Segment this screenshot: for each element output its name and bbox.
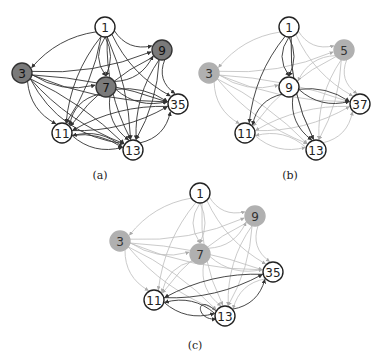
edge-faded [209, 197, 245, 213]
node-label: 3 [205, 67, 213, 81]
edge-faded [219, 32, 281, 68]
node-label: 5 [340, 44, 348, 58]
node-35: 35 [263, 262, 283, 282]
edge-highlighted [32, 32, 97, 68]
node-7: 7 [190, 244, 210, 264]
edge-faded [130, 218, 244, 240]
node-1: 1 [95, 17, 115, 37]
edge-faded [125, 250, 149, 291]
node-label: 13 [217, 310, 232, 324]
panel-caption: (b) [282, 169, 298, 182]
edge-faded [319, 60, 341, 140]
edge-highlighted [136, 60, 159, 140]
panel-caption: (a) [92, 169, 107, 182]
node-3: 3 [12, 63, 32, 83]
node-5: 5 [334, 40, 354, 60]
panel-caption: (c) [188, 339, 203, 352]
node-label: 1 [101, 21, 109, 35]
edge-faded [130, 243, 189, 256]
edge-highlighted [32, 52, 151, 72]
edge-faded [323, 112, 353, 143]
edge-highlighted [292, 96, 311, 140]
node-label: 13 [125, 144, 140, 158]
node-label: 37 [352, 98, 367, 112]
node-11: 11 [144, 290, 164, 310]
node-11: 11 [235, 123, 255, 143]
edge-faded [219, 75, 278, 88]
edge-highlighted [114, 31, 152, 47]
panel-c: 1937351113(c) [110, 183, 283, 352]
edge-faded [344, 60, 357, 94]
node-35: 35 [168, 94, 188, 114]
edge-highlighted [162, 60, 175, 94]
node-label: 7 [196, 248, 204, 262]
node-9: 9 [152, 40, 172, 60]
edge-highlighted [282, 37, 289, 76]
directed-graph-figure: 1937351113(a) 1539371113(b) 1937351113(c… [0, 0, 384, 363]
node-37: 37 [350, 94, 370, 114]
node-label: 3 [18, 67, 26, 81]
node-13: 13 [123, 140, 143, 160]
node-label: 9 [158, 44, 166, 58]
edge-faded [193, 203, 200, 243]
node-1: 1 [279, 17, 299, 37]
edge-faded [129, 198, 191, 235]
edge-faded [256, 226, 270, 262]
edge-faded [219, 52, 333, 72]
node-label: 11 [146, 294, 161, 308]
node-13: 13 [306, 140, 326, 160]
node-9: 9 [279, 77, 299, 97]
edge-highlighted [140, 112, 170, 143]
node-label: 35 [265, 266, 280, 280]
node-13: 13 [215, 306, 235, 326]
panel-b: 1539371113(b) [199, 17, 370, 182]
node-3: 3 [110, 231, 130, 251]
edge-highlighted [164, 302, 215, 316]
node-label: 9 [251, 210, 259, 224]
node-label: 1 [196, 187, 204, 201]
edge-highlighted [136, 60, 159, 140]
edge-highlighted [249, 36, 285, 123]
edge-faded [319, 60, 341, 140]
edge-faded [200, 203, 205, 243]
edge-faded [256, 106, 351, 130]
node-label: 11 [237, 127, 252, 141]
edge-highlighted [28, 81, 56, 124]
node-label: 3 [116, 235, 124, 249]
edge-highlighted [232, 279, 265, 309]
node-label: 1 [285, 21, 293, 35]
panel-a: 1937351113(a) [12, 17, 188, 182]
node-label: 11 [54, 127, 69, 141]
node-label: 35 [170, 98, 185, 112]
node-3: 3 [199, 63, 219, 83]
node-11: 11 [52, 123, 72, 143]
node-label: 9 [285, 81, 293, 95]
node-1: 1 [190, 183, 210, 203]
node-7: 7 [96, 77, 116, 97]
node-9: 9 [245, 206, 265, 226]
edge-faded [255, 135, 306, 149]
edge-highlighted [165, 300, 216, 314]
edge-faded [233, 279, 266, 309]
node-label: 7 [102, 81, 110, 95]
node-label: 13 [308, 144, 323, 158]
edge-highlighted [72, 107, 168, 131]
edge-faded [298, 31, 334, 47]
edge-highlighted [109, 96, 128, 140]
